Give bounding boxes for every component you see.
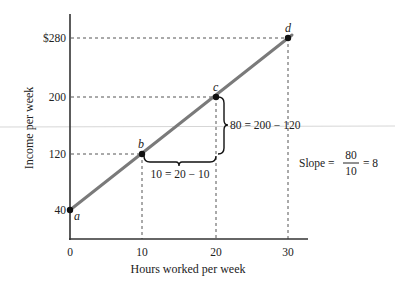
y-tick-280: $280	[43, 32, 66, 44]
y-axis-label: Income per week	[22, 87, 36, 170]
slope-formula: Slope = 80 10 = 8	[299, 149, 378, 177]
point-label-a: a	[74, 209, 80, 223]
point-a	[67, 207, 73, 213]
x-tick-10: 10	[136, 246, 148, 258]
guide-lines	[71, 38, 288, 239]
x-tick-0: 0	[67, 246, 73, 258]
x-axis-label: Hours worked per week	[131, 262, 246, 276]
x-tick-30: 30	[282, 246, 294, 258]
artifact-line	[0, 126, 395, 127]
slope-denominator: 10	[345, 165, 357, 177]
point-label-b: b	[138, 137, 144, 151]
rise-brace	[218, 97, 228, 154]
y-tick-120: 120	[49, 148, 67, 160]
rise-annotation: 80 = 200 − 120	[230, 119, 301, 131]
x-tick-20: 20	[210, 246, 222, 258]
run-brace	[144, 156, 216, 166]
point-label-d: d	[285, 21, 292, 35]
point-d	[285, 35, 291, 41]
y-tick-200: 200	[49, 91, 67, 103]
slope-prefix: Slope =	[299, 157, 335, 170]
slope-result: = 8	[363, 157, 378, 169]
y-tick-40: 40	[55, 204, 67, 216]
income-hours-chart: a b c d $280 200 120 40 0 10 20 30 Hours…	[0, 0, 395, 286]
point-label-c: c	[213, 80, 219, 94]
run-annotation: 10 = 20 − 10	[151, 168, 210, 180]
slope-numerator: 80	[345, 149, 357, 161]
